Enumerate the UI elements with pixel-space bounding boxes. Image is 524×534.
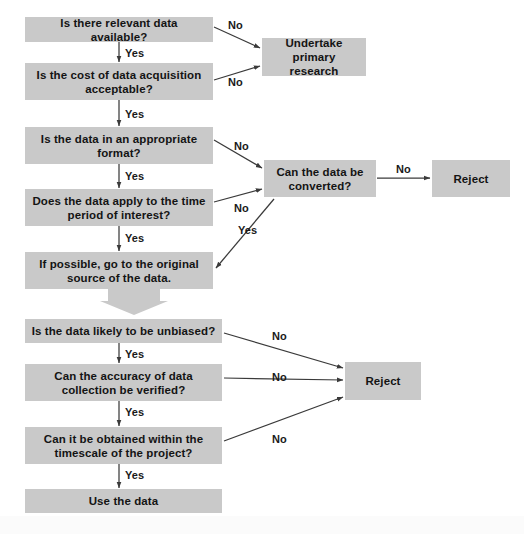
edge-label-no-1: No	[228, 19, 243, 31]
edge-label-no-4: No	[234, 202, 249, 214]
edge-label-yes-4: Yes	[125, 232, 144, 244]
edge-label-yes-1: Yes	[125, 47, 144, 59]
block-arrow-n8-n9	[100, 286, 168, 315]
node-undertake-primary-research[interactable]: Undertake primary research	[262, 38, 366, 76]
node-relevant-data[interactable]: Is there relevant data available?	[25, 17, 213, 42]
edge-label-yes-5: Yes	[125, 348, 144, 360]
node-reject-top[interactable]: Reject	[432, 160, 510, 197]
edge-label-no-converted: No	[396, 163, 411, 175]
edge-label-yes-7: Yes	[125, 469, 144, 481]
node-cost-acceptable[interactable]: Is the cost of data acquisition acceptab…	[25, 63, 213, 100]
edge-label-no-6: No	[272, 371, 287, 383]
edge-label-no-3: No	[234, 140, 249, 152]
edge-label-yes-2: Yes	[125, 108, 144, 120]
edge-label-yes-6: Yes	[125, 406, 144, 418]
node-original-source[interactable]: If possible, go to the original source o…	[25, 252, 213, 289]
edge-label-no-5: No	[272, 330, 287, 342]
node-reject-bottom[interactable]: Reject	[345, 362, 421, 400]
edge-label-yes-converted: Yes	[238, 224, 257, 236]
flowchart-canvas: Is there relevant data available? Is the…	[0, 0, 524, 534]
node-can-be-converted[interactable]: Can the data be converted?	[264, 160, 376, 197]
node-unbiased[interactable]: Is the data likely to be unbiased?	[25, 319, 222, 343]
node-use-the-data[interactable]: Use the data	[25, 489, 222, 513]
edge-label-yes-3: Yes	[125, 170, 144, 182]
node-accuracy-verified[interactable]: Can the accuracy of data collection be v…	[25, 364, 222, 401]
edge-label-no-2: No	[228, 76, 243, 88]
node-time-period[interactable]: Does the data apply to the time period o…	[25, 189, 213, 226]
node-appropriate-format[interactable]: Is the data in an appropriate format?	[25, 127, 213, 164]
edge-label-no-7: No	[272, 433, 287, 445]
page-bleed-artifact	[0, 516, 524, 534]
node-timescale[interactable]: Can it be obtained within the timescale …	[25, 427, 222, 464]
edge-n5-n6-no	[214, 189, 262, 202]
